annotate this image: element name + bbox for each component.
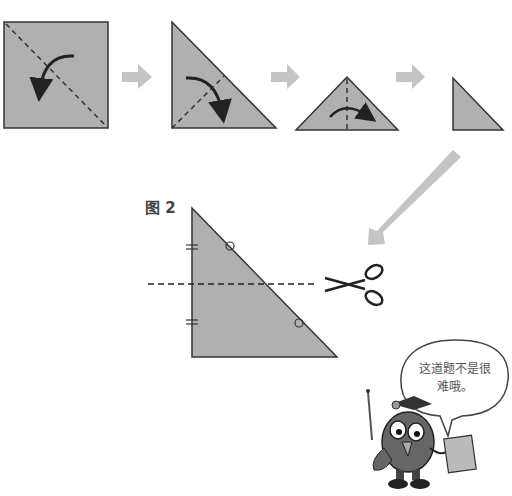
figure2-triangle (148, 208, 337, 357)
right-arrow-icon (396, 64, 425, 89)
right-arrow-icon (122, 64, 152, 89)
step4-triangle (453, 78, 503, 130)
step2-triangle (172, 22, 276, 128)
speech-bubble-text: 这道题不是很 难哦。 (405, 360, 505, 396)
folding-diagram (0, 0, 512, 496)
scissors-icon (325, 262, 385, 307)
right-arrow-icon (271, 64, 300, 89)
down-left-arrow-icon (368, 150, 461, 245)
speech-line-1: 这道题不是很 (405, 360, 505, 378)
step3-triangle (296, 77, 398, 130)
step1-square (4, 22, 108, 128)
figure-label: 图 2 (145, 196, 176, 217)
speech-line-2: 难哦。 (405, 378, 505, 396)
